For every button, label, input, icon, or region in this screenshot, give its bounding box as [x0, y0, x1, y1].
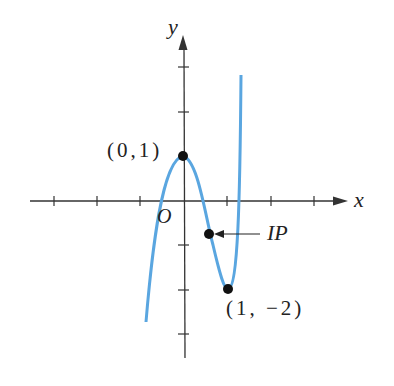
cubic-graph [0, 0, 394, 386]
y-axis-label: y [168, 14, 178, 40]
point-local-max [178, 151, 188, 161]
x-axis-label: x [354, 187, 364, 213]
y-axis [178, 35, 189, 358]
point-local-min [223, 284, 233, 294]
inflection-label: IP [267, 220, 288, 246]
point-inflection [204, 229, 214, 239]
origin-label: O [157, 205, 171, 228]
point-min-label: (1, −2) [226, 296, 304, 321]
x-axis [30, 196, 348, 206]
point-max-label: (0,1) [107, 138, 162, 163]
